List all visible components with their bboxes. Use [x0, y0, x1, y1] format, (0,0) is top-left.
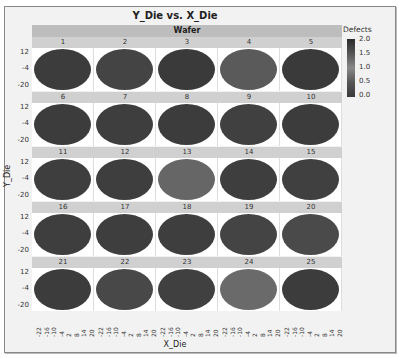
wafer-map	[158, 269, 215, 310]
x-tick: -16	[229, 327, 236, 337]
wafer-map	[158, 159, 215, 200]
y-tick: -4	[9, 174, 29, 182]
y-tick: -20	[9, 301, 29, 309]
y-tick: -4	[9, 64, 29, 72]
x-tick: -4	[58, 331, 65, 337]
wafer-panel	[32, 213, 94, 256]
wafer-panel	[156, 158, 218, 201]
x-tick: -16	[167, 327, 174, 337]
y-tick: -20	[9, 81, 29, 89]
wafer-map	[34, 214, 91, 255]
wafer-label: 5	[280, 37, 342, 48]
wafer-map	[34, 269, 91, 310]
wafer-map	[220, 104, 277, 145]
y-tick: -20	[9, 246, 29, 254]
y-tick: 12	[9, 158, 29, 166]
x-tick: 14	[328, 329, 335, 337]
x-tick: -16	[291, 327, 298, 337]
y-tick: 12	[9, 213, 29, 221]
x-tick: -10	[112, 327, 119, 337]
x-tick: 8	[259, 333, 266, 337]
wafer-grid: 1234567891011121314151617181920212223242…	[32, 37, 342, 312]
x-tick: 14	[80, 329, 87, 337]
wafer-label: 23	[156, 257, 218, 268]
wafer-map	[158, 49, 215, 90]
chart-title: Y_Die vs. X_Die	[5, 10, 345, 21]
x-tick: -10	[174, 327, 181, 337]
wafer-map	[96, 159, 153, 200]
wafer-map	[220, 269, 277, 310]
y-tick: -20	[9, 136, 29, 144]
y-tick: -20	[9, 191, 29, 199]
wafer-panel	[156, 103, 218, 146]
wafer-panel	[94, 158, 156, 201]
wafer-label: 22	[94, 257, 156, 268]
wafer-map	[96, 214, 153, 255]
wafer-row: 2122232425	[32, 257, 342, 312]
x-tick: -22	[221, 327, 228, 337]
wafer-map	[158, 214, 215, 255]
legend-tick: 1.5	[359, 49, 370, 57]
x-tick: 8	[73, 333, 80, 337]
wafer-panel	[32, 158, 94, 201]
wafer-map	[220, 159, 277, 200]
x-tick: -10	[236, 327, 243, 337]
x-tick: 20	[88, 329, 95, 337]
wafer-map	[96, 269, 153, 310]
wafer-panel	[218, 158, 280, 201]
wafer-row: 678910	[32, 92, 342, 147]
x-tick: 2	[65, 333, 72, 337]
wafer-map	[158, 104, 215, 145]
wafer-map	[34, 49, 91, 90]
wafer-map	[34, 104, 91, 145]
wafer-label: 12	[94, 147, 156, 158]
y-tick: 12	[9, 268, 29, 276]
legend-tick: 0.0	[359, 91, 370, 99]
legend-gradient-bar	[347, 39, 355, 97]
wafer-label: 4	[218, 37, 280, 48]
legend-tick: 0.5	[359, 77, 370, 85]
color-legend: Defects 2.01.51.00.50.0	[343, 25, 393, 34]
wafer-panel	[280, 213, 342, 256]
wafer-panel	[218, 268, 280, 311]
wafer-panel	[94, 103, 156, 146]
x-tick: 8	[197, 333, 204, 337]
x-tick: 2	[189, 333, 196, 337]
x-tick: -22	[159, 327, 166, 337]
wafer-panel	[280, 158, 342, 201]
wafer-panel	[218, 103, 280, 146]
wafer-map	[282, 159, 339, 200]
wafer-row: 1617181920	[32, 202, 342, 257]
wafer-label: 15	[280, 147, 342, 158]
wafer-label: 6	[32, 92, 94, 103]
wafer-map	[96, 104, 153, 145]
legend-title: Defects	[343, 25, 393, 34]
wafer-label: 8	[156, 92, 218, 103]
wafer-label: 19	[218, 202, 280, 213]
wafer-label: 24	[218, 257, 280, 268]
x-tick: -10	[298, 327, 305, 337]
wafer-panel	[156, 213, 218, 256]
wafer-label: 3	[156, 37, 218, 48]
x-tick: 8	[135, 333, 142, 337]
wafer-label: 13	[156, 147, 218, 158]
wafer-label: 20	[280, 202, 342, 213]
wafer-map	[34, 159, 91, 200]
x-tick: -4	[306, 331, 313, 337]
x-tick: 20	[336, 329, 343, 337]
wafer-map	[282, 269, 339, 310]
wafer-panel	[94, 268, 156, 311]
wafer-panel	[280, 48, 342, 91]
x-tick: -16	[43, 327, 50, 337]
wafer-label: 16	[32, 202, 94, 213]
y-tick: -4	[9, 119, 29, 127]
wafer-label: 25	[280, 257, 342, 268]
wafer-map	[220, 49, 277, 90]
x-tick: 2	[127, 333, 134, 337]
wafer-label: 21	[32, 257, 94, 268]
wafer-panel	[94, 213, 156, 256]
x-tick: -4	[182, 331, 189, 337]
wafer-panel	[280, 103, 342, 146]
wafer-panel	[218, 213, 280, 256]
x-tick: 20	[274, 329, 281, 337]
